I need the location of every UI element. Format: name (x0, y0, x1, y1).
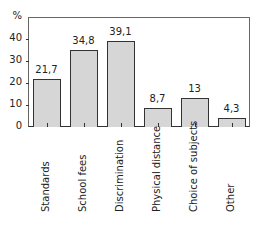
value-label: 4,3 (212, 104, 252, 114)
y-tick-mark (26, 61, 29, 62)
y-tick-mark (26, 83, 29, 84)
x-category-label: Other (226, 184, 236, 212)
x-tick-mark (121, 123, 122, 127)
x-tick-mark (84, 123, 85, 127)
y-axis-unit-label: % (2, 11, 22, 21)
x-tick-mark (232, 123, 233, 127)
value-label: 39,1 (101, 27, 141, 37)
y-tick-label: 40 (2, 33, 22, 43)
value-label: 13 (175, 84, 215, 94)
value-label: 8,7 (138, 94, 178, 104)
bar-school-fees (70, 50, 98, 127)
bar-discrimination (107, 41, 135, 127)
x-category-label: Physical distance (152, 126, 162, 212)
x-category-label: Discrimination (115, 140, 125, 212)
y-tick-label: 0 (2, 121, 22, 131)
value-label: 34,8 (64, 36, 104, 46)
y-tick-mark (26, 105, 29, 106)
bar-chart: %010203040 21,7Standards34,8School fees3… (0, 0, 263, 225)
y-tick-label: 10 (2, 99, 22, 109)
x-category-label: Choice of subjects (189, 121, 199, 212)
x-category-label: Standards (41, 161, 51, 212)
x-category-label: School fees (78, 155, 88, 212)
bar-standards (33, 79, 61, 127)
y-tick-label: 20 (2, 77, 22, 87)
y-tick-mark (26, 39, 29, 40)
x-tick-mark (47, 123, 48, 127)
y-tick-label: 30 (2, 55, 22, 65)
value-label: 21,7 (27, 65, 67, 75)
